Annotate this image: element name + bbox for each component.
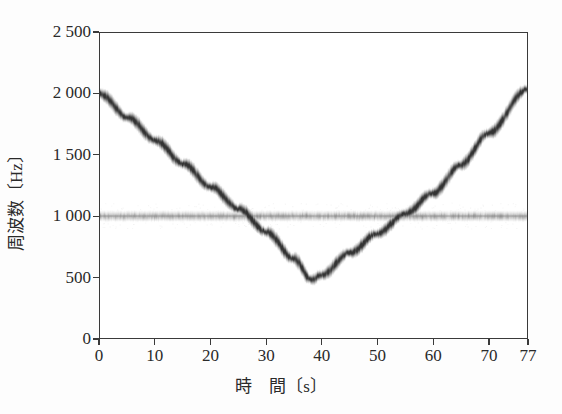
- x-tick-mark: [377, 339, 378, 345]
- y-tick-label: 500: [66, 269, 92, 286]
- x-tick-mark: [321, 339, 322, 345]
- x-axis-title: 時 間〔s〕: [0, 372, 562, 397]
- x-tick-label: 30: [258, 347, 275, 364]
- x-tick-label: 10: [146, 347, 163, 364]
- y-tick-label: 2 000: [53, 84, 91, 101]
- y-axis-title: 周波数〔Hz〕: [2, 99, 27, 299]
- x-tick-mark: [488, 339, 489, 345]
- y-tick-label: 2 500: [53, 23, 91, 40]
- plot-area: [99, 32, 528, 339]
- y-tick-label: 1 000: [53, 207, 91, 224]
- x-tick-label: 50: [369, 347, 386, 364]
- x-tick-mark: [266, 339, 267, 345]
- x-tick-mark: [433, 339, 434, 345]
- x-tick-label: 40: [313, 347, 330, 364]
- x-tick-label: 20: [202, 347, 219, 364]
- spectrogram-figure: 周波数〔Hz〕 2 5002 0001 5001 0005000 0102030…: [0, 0, 562, 414]
- spectrogram-image: [100, 33, 527, 338]
- x-tick-label: 77: [520, 347, 537, 364]
- x-tick-mark: [210, 339, 211, 345]
- x-tick-mark: [98, 339, 99, 345]
- x-axis: 01020304050607077 時 間〔s〕: [0, 339, 562, 414]
- x-tick-mark: [527, 339, 528, 345]
- x-tick-mark: [154, 339, 155, 345]
- x-tick-label: 0: [95, 347, 104, 364]
- x-tick-label: 60: [425, 347, 442, 364]
- x-tick-label: 70: [481, 347, 498, 364]
- y-tick-label: 1 500: [53, 146, 91, 163]
